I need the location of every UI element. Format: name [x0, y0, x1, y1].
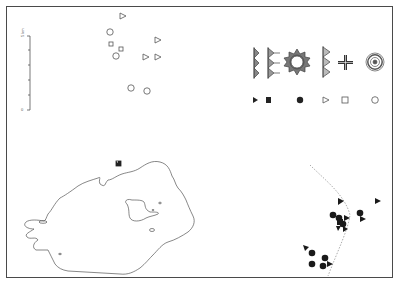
open-circle-icon [144, 88, 150, 94]
open-triangle-icon [323, 97, 329, 103]
motif-outlined-triangle-column-icon [323, 46, 330, 78]
island-outline [25, 161, 194, 274]
filled-circle-icon [330, 212, 337, 219]
scale-bar [27, 36, 30, 110]
motif-concentric-circles-icon [366, 53, 384, 71]
scale-bottom-label: 0 [21, 107, 24, 112]
motif-triangle-column-icon [254, 47, 259, 79]
filled-points-cluster [303, 198, 381, 269]
motif-sun-icon [284, 49, 310, 75]
legend-motifs [254, 46, 384, 79]
filled-triangle-icon [336, 226, 341, 231]
open-circle-icon [113, 53, 119, 59]
motif-double-triangle-column-icon [268, 47, 280, 79]
open-square-icon [119, 47, 123, 51]
open-triangle-icon [155, 54, 161, 60]
filled-circle-icon [297, 97, 303, 103]
legend-markers [253, 97, 378, 104]
filled-circle-icon [357, 210, 364, 217]
open-square-icon [109, 42, 113, 46]
filled-triangle-icon [360, 216, 366, 222]
open-triangle-icon [120, 13, 126, 19]
filled-triangle-icon [375, 198, 381, 204]
filled-circle-icon [309, 261, 316, 268]
open-square-icon [342, 97, 348, 103]
motif-cross-icon [338, 55, 353, 70]
filled-triangle-icon [303, 245, 309, 251]
open-triangle-icon [143, 54, 149, 60]
open-circle-icon [372, 97, 379, 104]
map-canvas: 5 km 0 [0, 0, 396, 283]
filled-triangle-icon [253, 97, 258, 103]
open-points-cluster [107, 13, 161, 94]
filled-circle-icon [322, 255, 329, 262]
open-circle-icon [107, 29, 113, 35]
island-site-marker [116, 161, 121, 166]
filled-circle-icon [309, 250, 316, 257]
open-circle-icon [128, 85, 134, 91]
filled-square-icon [266, 97, 271, 103]
filled-triangle-icon [338, 198, 344, 205]
scale-top-label: 5 km [20, 28, 25, 37]
open-triangle-icon [155, 37, 161, 43]
filled-circle-icon [320, 263, 327, 270]
filled-triangle-icon [327, 261, 333, 267]
